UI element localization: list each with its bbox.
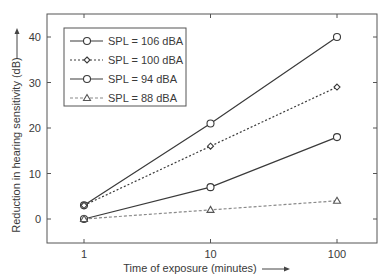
- triangle-marker-icon: [334, 197, 341, 203]
- x-axis-title: Time of exposure (minutes): [123, 262, 256, 274]
- x-tick-label: 100: [328, 248, 346, 260]
- y-axis-arrow-icon: [15, 28, 20, 58]
- y-tick-label: 30: [29, 77, 41, 89]
- circle-marker-icon: [334, 134, 341, 141]
- legend-label: SPL = 88 dBA: [108, 92, 178, 104]
- x-tick-label: 1: [81, 248, 87, 260]
- diamond-marker-icon: [334, 84, 340, 90]
- circle-marker-icon: [84, 38, 91, 45]
- triangle-marker-icon: [207, 206, 214, 212]
- circle-marker-icon: [207, 120, 214, 127]
- circle-marker-icon: [334, 34, 341, 41]
- diamond-marker-icon: [208, 143, 214, 149]
- circle-marker-icon: [207, 184, 214, 191]
- legend-label: SPL = 94 dBA: [108, 73, 178, 85]
- y-tick-label: 40: [29, 31, 41, 43]
- x-axis-arrow-icon: [262, 267, 290, 272]
- line-chart: 110100010203040 SPL = 106 dBASPL = 100 d…: [0, 0, 391, 279]
- legend-label: SPL = 100 dBA: [108, 54, 184, 66]
- circle-marker-icon: [84, 76, 91, 83]
- y-axis-title: Reduction in hearing sensitivity (dB): [10, 57, 22, 232]
- x-tick-label: 10: [204, 248, 216, 260]
- series-line: [81, 197, 341, 221]
- y-tick-label: 10: [29, 168, 41, 180]
- y-tick-label: 0: [35, 213, 41, 225]
- y-tick-label: 20: [29, 122, 41, 134]
- legend: SPL = 106 dBASPL = 100 dBASPL = 94 dBASP…: [64, 28, 186, 106]
- legend-label: SPL = 106 dBA: [108, 35, 184, 47]
